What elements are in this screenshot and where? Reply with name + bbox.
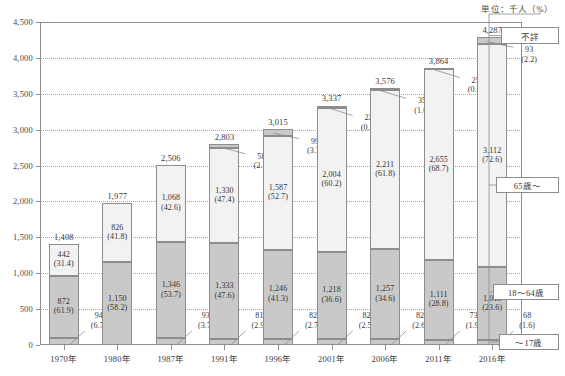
bar-total-label: 1,408 [37,232,91,242]
y-axis-tick [36,130,40,131]
y-axis-tick-label: 1,500 [0,232,33,242]
bar-segment-65 [49,244,79,276]
y-axis-tick [36,345,40,346]
x-axis-tick [64,345,65,350]
y-axis-tick-label: 0 [0,340,33,350]
y-axis-tick [36,94,40,95]
seg-value: 93 [525,45,533,54]
bar-segment-unk [209,144,239,148]
x-axis-tick-label: 2016年 [465,352,519,364]
bar-segment-65 [102,203,132,262]
bar-segment-17 [49,338,79,345]
bar-segment-unk [424,68,454,70]
y-axis-tick [36,166,40,167]
bar-segment-1864 [49,276,79,339]
bar-segment-65 [317,108,347,252]
x-axis-tick-label: 1991年 [197,352,251,364]
stacked-bar-chart: 単位：千人（%） 05001,0001,5002,0002,5003,0003,… [0,0,565,376]
bar-segment-1864 [209,243,239,339]
bar-segment-65 [209,148,239,243]
y-axis-tick-label: 4,000 [0,53,33,63]
bar-segment-unk [317,106,347,108]
legend-item-age1864[interactable]: 18～64歳 [493,284,559,300]
x-axis-tick-label: 2011年 [412,352,466,364]
y-axis-tick [36,22,40,23]
bar-1991年 [209,144,239,345]
legend-item-age65[interactable]: 65歳～ [496,177,559,193]
bar-segment-17 [156,338,186,345]
y-axis-tick-label: 500 [0,304,33,314]
y-axis-tick [36,201,40,202]
bar-segment-1864 [156,242,186,339]
bar-segment-1864 [424,260,454,340]
y-axis-tick-label: 3,500 [0,89,33,99]
x-axis-tick-label: 1987年 [144,352,198,364]
x-axis-tick [492,345,493,350]
bar-total-label: 1,977 [90,191,144,201]
bar-total-label: 2,506 [144,153,198,163]
x-axis-tick [332,345,333,350]
bar-total-label: 3,015 [251,117,305,127]
bar-2001年 [317,105,347,345]
legend-item-unknown[interactable]: 不詳 [501,27,559,44]
outside-label-unknown: 93(2.2) [514,45,544,64]
bar-total-label: 3,337 [305,93,359,103]
legend-item-age17[interactable]: ～17歳 [499,334,559,350]
bar-1987年 [156,165,186,345]
bar-2006年 [370,88,400,345]
bar-segment-65 [370,90,400,249]
bar-2011年 [424,68,454,345]
y-axis-tick [36,273,40,274]
bar-1996年 [263,129,293,345]
bar-1980年 [102,203,132,345]
x-axis-tick [171,345,172,350]
bar-total-label: 3,864 [412,56,466,66]
bar-segment-unk [370,88,400,91]
y-axis-tick-label: 2,000 [0,196,33,206]
x-axis-tick-label: 2001年 [305,352,359,364]
seg-pct: (1.6) [519,321,535,330]
unit-note: 単位：千人（%） [481,2,553,14]
bar-segment-65 [263,136,293,250]
y-axis-tick-label: 1,000 [0,268,33,278]
bar-total-label: 2,803 [197,132,251,142]
bar-segment-1864 [102,262,132,345]
x-axis-tick-label: 1996年 [251,352,305,364]
bar-total-label: 3,576 [358,76,412,86]
bar-segment-1864 [370,249,400,339]
y-axis-tick-label: 3,000 [0,125,33,135]
bar-segment-65 [156,165,186,242]
y-axis-tick [36,58,40,59]
x-axis-tick [439,345,440,350]
x-axis-tick [385,345,386,350]
outside-label-age17: 68(1.6) [512,311,542,330]
bar-segment-1864 [263,250,293,339]
x-axis-tick [278,345,279,350]
x-axis-tick-label: 1970年 [37,352,91,364]
x-axis-tick [117,345,118,350]
bar-segment-1864 [477,267,507,340]
seg-value: 68 [523,311,531,320]
bar-1970年 [49,244,79,345]
bar-segment-1864 [317,252,347,339]
bar-segment-65 [424,69,454,260]
seg-pct: (2.2) [521,55,537,64]
bar-segment-65 [477,44,507,267]
x-axis-tick-label: 1980年 [90,352,144,364]
bar-segment-unk [263,129,293,136]
y-axis-tick-label: 4,500 [0,17,33,27]
y-axis-tick-label: 2,500 [0,161,33,171]
x-axis-tick [224,345,225,350]
y-axis-tick [36,309,40,310]
x-axis-tick-label: 2006年 [358,352,412,364]
